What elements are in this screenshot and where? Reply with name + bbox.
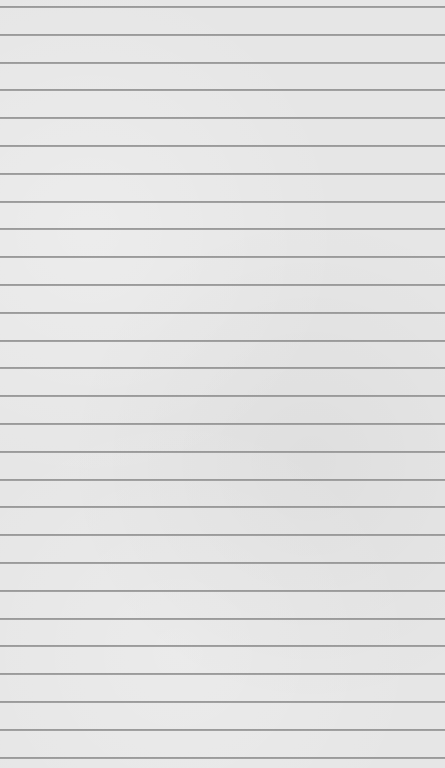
ruled-line	[0, 506, 445, 508]
lined-paper-background	[0, 0, 445, 768]
ruled-line	[0, 701, 445, 703]
ruled-line	[0, 673, 445, 675]
ruled-line	[0, 645, 445, 647]
ruled-line	[0, 284, 445, 286]
ruled-line	[0, 479, 445, 481]
ruled-line	[0, 590, 445, 592]
ruled-line	[0, 423, 445, 425]
ruled-line	[0, 618, 445, 620]
ruled-line	[0, 312, 445, 314]
ruled-line	[0, 729, 445, 731]
ruled-line	[0, 6, 445, 8]
ruled-line	[0, 228, 445, 230]
ruled-line	[0, 562, 445, 564]
ruled-line	[0, 451, 445, 453]
ruled-line	[0, 256, 445, 258]
ruled-line	[0, 367, 445, 369]
ruled-line	[0, 534, 445, 536]
ruled-line	[0, 117, 445, 119]
ruled-line	[0, 173, 445, 175]
ruled-line	[0, 89, 445, 91]
ruled-line	[0, 340, 445, 342]
ruled-line	[0, 395, 445, 397]
ruled-line	[0, 757, 445, 759]
ruled-line	[0, 34, 445, 36]
ruled-line	[0, 62, 445, 64]
ruled-line	[0, 201, 445, 203]
ruled-line	[0, 145, 445, 147]
